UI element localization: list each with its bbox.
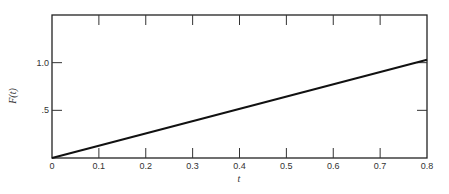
- x-tick-label: 0.2: [139, 161, 152, 171]
- x-tick-label: 0.4: [233, 161, 246, 171]
- y-tick-label: 1.0: [36, 58, 49, 68]
- data-line: [52, 60, 427, 158]
- x-axis-ticks: 00.10.20.30.40.50.60.70.8: [49, 15, 433, 171]
- x-tick-label: 0.8: [421, 161, 434, 171]
- plot-frame: [52, 15, 427, 158]
- x-tick-label: 0.6: [327, 161, 340, 171]
- x-tick-label: 0.7: [374, 161, 387, 171]
- x-axis-label: t: [238, 173, 241, 184]
- y-axis-label: F(t): [7, 88, 19, 105]
- y-tick-label: .5: [41, 105, 49, 115]
- x-tick-label: 0.5: [280, 161, 293, 171]
- y-axis-ticks: .51.0: [36, 58, 427, 116]
- chart: 00.10.20.30.40.50.60.70.8 .51.0 t F(t): [0, 0, 449, 194]
- x-tick-label: 0.1: [93, 161, 106, 171]
- x-tick-label: 0.3: [186, 161, 199, 171]
- x-tick-label: 0: [49, 161, 54, 171]
